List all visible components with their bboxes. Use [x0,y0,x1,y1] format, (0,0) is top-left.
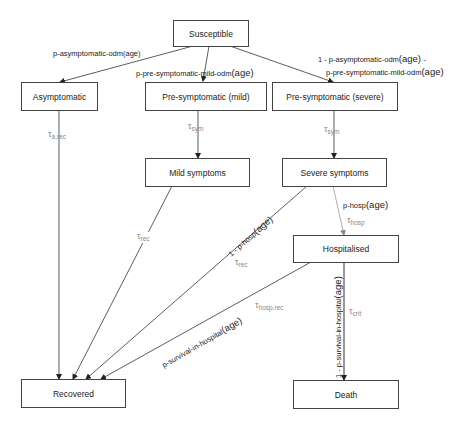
label-p-presym-mild: p-pre-symptomatic-mild-odm(age) [136,68,254,78]
label-tau-rec-severe: τrec [235,258,248,269]
node-presymptomatic-severe-label: Pre-symptomatic (severe) [286,92,383,102]
node-susceptible-label: Susceptible [189,29,233,39]
node-presymptomatic-mild: Pre-symptomatic (mild) [145,82,267,111]
node-death-label: Death [335,390,358,400]
label-tau-rec-mild: τrec [137,232,150,243]
node-asymptomatic: Asymptomatic [21,82,98,111]
node-presymptomatic-mild-label: Pre-symptomatic (mild) [162,92,249,102]
label-tau-hosp-rec: τhosp.rec [255,301,284,312]
node-severe-symptoms: Severe symptoms [282,158,387,187]
node-death: Death [293,380,399,409]
node-asymptomatic-label: Asymptomatic [33,92,86,102]
label-tau-sym-mild: τsym [188,122,203,133]
node-hospitalised: Hospitalised [293,235,399,263]
node-susceptible: Susceptible [173,20,249,47]
label-tau-sym-severe: τsym [324,125,339,136]
node-hospitalised-label: Hospitalised [323,244,369,254]
label-tau-crit: τcrit [349,307,361,318]
node-severe-symptoms-label: Severe symptoms [300,168,368,178]
node-mild-symptoms-label: Mild symptoms [169,168,226,178]
label-1-minus-p-survival: 1 - p-survival-in-hospital(age) [333,276,343,378]
node-mild-symptoms: Mild symptoms [145,158,250,187]
node-recovered: Recovered [21,379,126,408]
edge-hospitalised-recovered [101,262,311,379]
label-tau-hosp: τhosp [347,216,365,227]
label-tau-a-rec: τa,rec [48,130,66,141]
edge-mild-recovered [73,186,172,379]
edge-severe-hospitalised [333,186,344,235]
label-p-asymptomatic: p-asymptomatic-odm(age) [53,50,141,58]
node-recovered-label: Recovered [53,389,94,399]
label-p-hosp: p-hosp(age) [343,200,388,210]
label-p-presym-severe: 1 - p-asymptomatic-odm(age) - p-pre-symp… [318,53,444,79]
node-presymptomatic-severe: Pre-symptomatic (severe) [272,82,398,111]
